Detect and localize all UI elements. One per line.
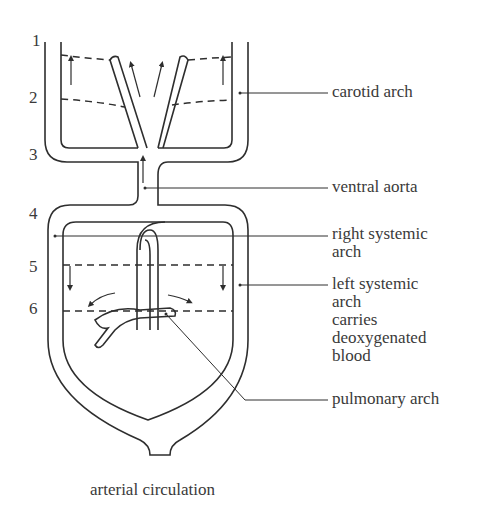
arch-1-right-dashed [188,57,232,60]
pulmonary-vessel [95,308,175,348]
figure-caption: arterial circulation [90,480,215,500]
flow-arrow-v-left [131,64,140,97]
arch-number-6: 6 [29,299,38,319]
arch-number-1: 1 [32,31,41,51]
arch-number-3: 3 [29,145,38,165]
label-left-systemic-arch: left systemic arch carries deoxygenated … [332,275,426,365]
carotid-inner-left [61,42,138,148]
label-carotid-arch: carotid arch [332,83,413,101]
carotid-outer-vessel [45,42,248,455]
label-ventral-aorta: ventral aorta [332,178,417,196]
systemic-inner-vessel [63,222,233,420]
arch-2-right-dashed [172,100,232,105]
flow-arrow-v-right [154,64,162,97]
arch-number-5: 5 [29,257,38,277]
label-pulmonary-arch: pulmonary arch [332,390,439,408]
arch-number-4: 4 [29,204,38,224]
v-vessel-left [110,56,147,148]
v-vessel-right [158,56,188,148]
label-right-systemic-arch: right systemic arch [332,225,428,261]
arch-number-2: 2 [29,88,38,108]
flow-arrow-pulmonary-right [168,295,190,302]
flow-arrow-pulmonary-left [90,293,115,305]
carotid-inner-right [158,42,232,148]
arch-1-left-dashed [61,55,110,60]
arch-2-left-dashed [61,99,125,107]
